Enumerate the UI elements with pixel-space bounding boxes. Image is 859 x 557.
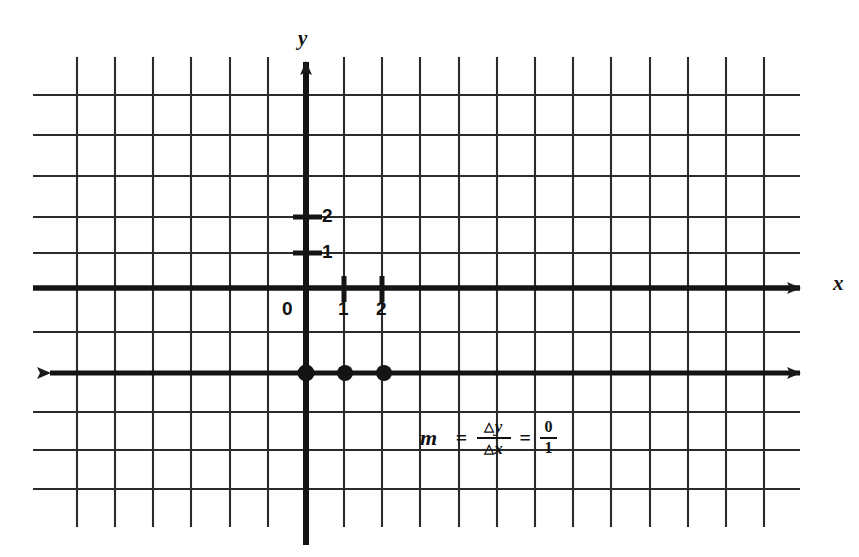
slope-formula: m = △y △x = 0 1: [420, 417, 557, 459]
figure-canvas: x y 0 1 2 1 2 m = △y △x = 0 1: [0, 0, 859, 557]
slope-variable-m: m: [420, 427, 438, 449]
x-axis-label: x: [833, 271, 844, 296]
data-point-0: [298, 365, 315, 382]
delta-fraction: △y △x: [477, 417, 511, 459]
y-tick-label-1: 1: [322, 241, 333, 263]
rise-value: 0: [540, 418, 557, 437]
x-tick-label-2: 2: [376, 298, 387, 320]
data-point-1: [337, 365, 353, 381]
delta-symbol-y: △: [484, 419, 495, 434]
delta-symbol-x: △: [484, 441, 495, 456]
value-fraction: 0 1: [540, 418, 557, 458]
coordinate-grid-graph: [0, 0, 859, 557]
data-point-2: [376, 365, 392, 381]
y-axis-label: y: [298, 26, 307, 51]
equals-sign-2: =: [520, 428, 532, 448]
x-tick-label-1: 1: [338, 298, 349, 320]
equals-sign-1: =: [456, 428, 468, 448]
y-tick-label-2: 2: [322, 205, 333, 227]
grid-lines: [33, 57, 800, 527]
origin-label: 0: [282, 298, 293, 320]
delta-x-term: △x: [480, 439, 508, 459]
delta-x-variable: x: [494, 439, 503, 458]
run-value: 1: [540, 439, 557, 458]
delta-y-term: △y: [480, 417, 507, 437]
delta-y-variable: y: [495, 417, 503, 436]
